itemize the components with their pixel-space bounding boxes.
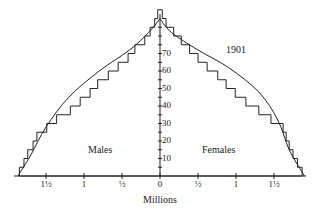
year-label: 1901 xyxy=(226,44,246,55)
x-tick-label: 0 xyxy=(158,179,163,189)
x-tick-label: ½ xyxy=(119,179,126,189)
y-tick-label: 70 xyxy=(162,48,171,58)
y-tick-label: 30 xyxy=(162,118,171,128)
y-tick-label: 60 xyxy=(162,65,171,75)
x-tick-label: ½ xyxy=(195,179,202,189)
males-label: Males xyxy=(88,144,112,155)
y-tick-label: 10 xyxy=(162,153,171,163)
y-tick-label: 20 xyxy=(162,135,171,145)
y-tick-label: 50 xyxy=(162,83,171,93)
x-tick-label: 1 xyxy=(234,179,239,189)
population-pyramid-chart xyxy=(0,0,320,224)
x-tick-label: 1½ xyxy=(40,179,51,189)
x-axis-title: Millions xyxy=(143,194,177,205)
y-tick-label: 40 xyxy=(162,100,171,110)
axes xyxy=(14,14,306,176)
females-label: Females xyxy=(202,144,235,155)
x-tick-label: 1½ xyxy=(268,179,279,189)
x-tick-label: 1 xyxy=(82,179,87,189)
